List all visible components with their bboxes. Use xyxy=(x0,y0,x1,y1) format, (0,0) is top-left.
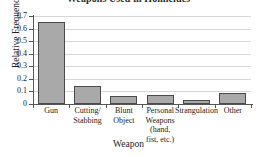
y-axis-tick xyxy=(29,91,33,92)
bar-chart-figure: Weapons Used in Homicides Relative Frequ… xyxy=(0,0,257,157)
x-axis-tick xyxy=(251,104,252,108)
gridline xyxy=(33,54,251,55)
y-axis-tick xyxy=(29,41,33,42)
y-axis-tick xyxy=(29,79,33,80)
y-axis-tick-label: 0.4 xyxy=(0,50,27,58)
gridline xyxy=(33,29,251,30)
gridline xyxy=(33,66,251,67)
bar xyxy=(74,86,101,104)
gridline xyxy=(33,16,251,17)
y-axis-tick-label: 0.1 xyxy=(0,87,27,95)
bar xyxy=(110,96,137,104)
gridline xyxy=(33,41,251,42)
bar xyxy=(219,93,246,104)
bar xyxy=(183,100,210,104)
plot-area xyxy=(33,16,251,104)
x-axis-title: Weapon xyxy=(0,139,257,149)
y-axis-tick xyxy=(29,66,33,67)
y-axis-line xyxy=(33,15,34,105)
y-axis-tick xyxy=(29,29,33,30)
y-axis-tick-label: 0 xyxy=(0,100,27,108)
y-axis-tick-label: 0.2 xyxy=(0,75,27,83)
y-axis-tick-label: 0.7 xyxy=(0,12,27,20)
gridline xyxy=(33,79,251,80)
gridline xyxy=(33,91,251,92)
chart-title: Weapons Used in Homicides xyxy=(0,0,257,4)
y-axis-tick xyxy=(29,54,33,55)
y-axis-tick-label: 0.6 xyxy=(0,25,27,33)
y-axis-tick-label: 0.5 xyxy=(0,37,27,45)
bar xyxy=(38,22,65,104)
bar xyxy=(147,95,174,104)
x-axis-category-label: Other xyxy=(209,106,257,116)
y-axis-tick-label: 0.3 xyxy=(0,62,27,70)
y-axis-tick xyxy=(29,16,33,17)
